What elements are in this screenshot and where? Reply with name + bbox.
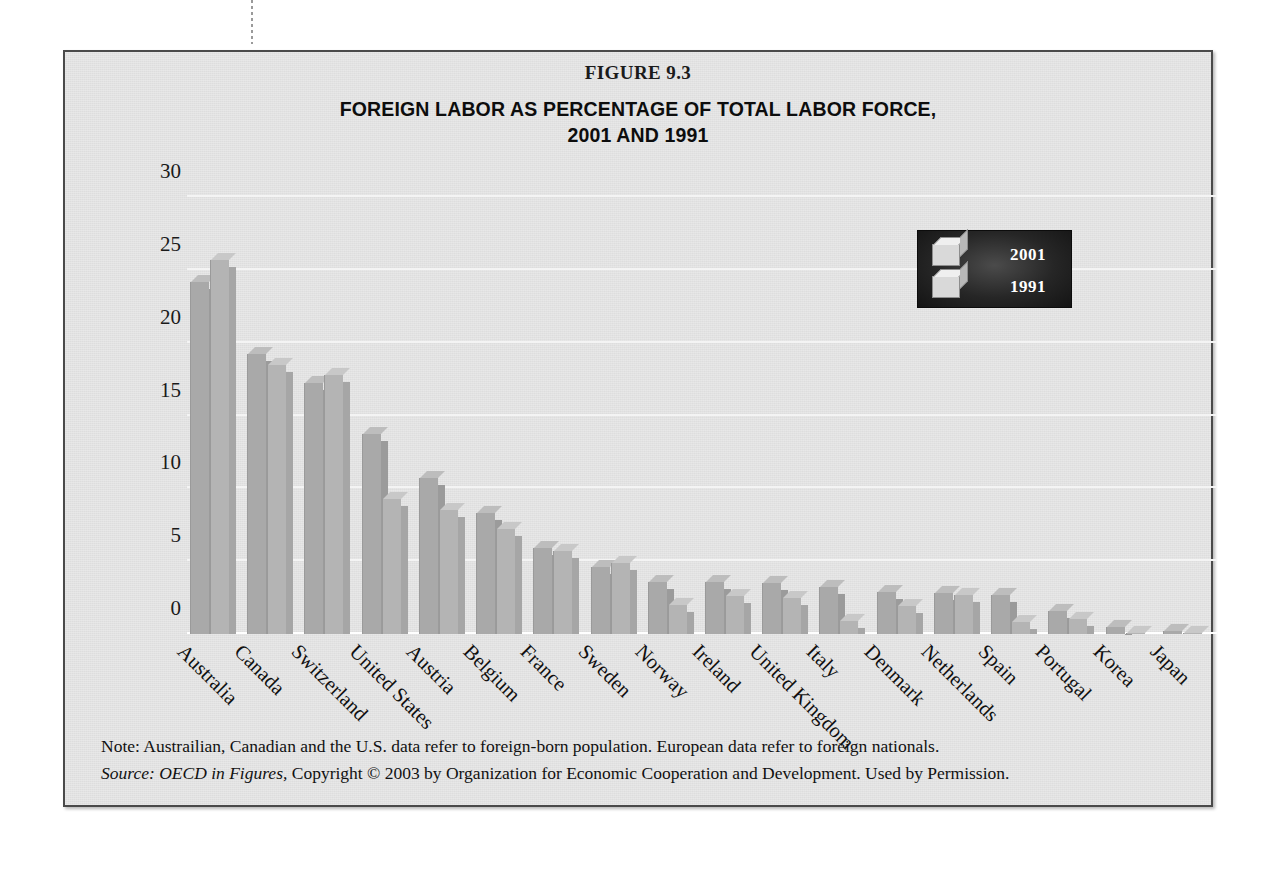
bar-2001 <box>190 282 209 635</box>
bar-1991 <box>210 260 229 634</box>
note-text: Note: Austrailian, Canadian and the U.S.… <box>101 733 1181 760</box>
cube-icon-1991 <box>932 276 960 298</box>
x-label-denmark: Denmark <box>859 640 929 710</box>
bar-group <box>1160 197 1217 634</box>
bar-2001 <box>762 583 781 634</box>
x-label-korea: Korea <box>1088 640 1140 692</box>
bar-1991 <box>725 596 744 634</box>
bar-1991 <box>1011 622 1030 634</box>
x-label-australia: Australia <box>173 640 242 709</box>
legend-label-2001: 2001 <box>1010 245 1046 265</box>
bar-1991 <box>439 510 458 634</box>
y-tick-label-20: 20 <box>111 305 181 330</box>
y-tick-label-5: 5 <box>111 523 181 548</box>
page-dotted-rule-artifact <box>251 0 253 44</box>
bar-2001 <box>247 354 266 634</box>
bar-group <box>588 197 645 634</box>
bar-group <box>1103 197 1160 634</box>
bar-2001 <box>934 593 953 634</box>
source-work-title: OECD in Figures, <box>159 763 287 783</box>
bar-1991 <box>496 529 515 634</box>
bar-2001 <box>591 567 610 634</box>
x-label-ireland: Ireland <box>688 640 745 697</box>
chart-legend: 2001 1991 <box>917 230 1072 308</box>
bar-2001 <box>533 548 552 634</box>
x-label-portugal: Portugal <box>1031 640 1096 705</box>
figure-title-line-1: FOREIGN LABOR AS PERCENTAGE OF TOTAL LAB… <box>65 96 1211 122</box>
bar-1991 <box>668 605 687 634</box>
bar-1991 <box>1183 633 1202 634</box>
bar-2001 <box>1106 627 1125 634</box>
bar-1991 <box>382 499 401 634</box>
x-label-sweden: Sweden <box>573 640 635 702</box>
x-label-belgium: Belgium <box>459 640 525 706</box>
bar-2001 <box>476 513 495 634</box>
source-label: Source: <box>101 763 155 783</box>
y-tick-label-25: 25 <box>111 232 181 257</box>
x-label-spain: Spain <box>974 640 1023 689</box>
y-tick-label-30: 30 <box>111 159 181 184</box>
x-label-italy: Italy <box>802 640 845 683</box>
bar-2001 <box>648 582 667 634</box>
figure-notes: Note: Austrailian, Canadian and the U.S.… <box>101 733 1181 787</box>
bar-2001 <box>705 582 724 634</box>
figure-panel: FIGURE 9.3 FOREIGN LABOR AS PERCENTAGE O… <box>63 50 1213 807</box>
bar-1991 <box>897 606 916 634</box>
legend-label-1991: 1991 <box>1010 277 1046 297</box>
y-tick-label-0: 0 <box>111 596 181 621</box>
x-label-japan: Japan <box>1146 640 1195 689</box>
source-rest: Copyright © 2003 by Organization for Eco… <box>292 763 1010 783</box>
bar-2001 <box>1163 631 1182 634</box>
bar-1991 <box>267 365 286 634</box>
figure-title-line-2: 2001 AND 1991 <box>65 122 1211 148</box>
bar-1991 <box>611 563 630 634</box>
bar-2001 <box>877 592 896 634</box>
bar-1991 <box>1126 633 1145 634</box>
bar-2001 <box>991 595 1010 634</box>
bar-group <box>702 197 759 634</box>
bar-2001 <box>819 587 838 634</box>
bar-2001 <box>304 383 323 634</box>
bar-1991 <box>954 595 973 634</box>
bar-1991 <box>553 551 572 634</box>
bar-1991 <box>782 598 801 634</box>
bar-2001 <box>1048 611 1067 634</box>
figure-number: FIGURE 9.3 <box>65 62 1211 84</box>
figure-titles: FIGURE 9.3 FOREIGN LABOR AS PERCENTAGE O… <box>65 62 1211 148</box>
bar-group <box>416 197 473 634</box>
bar-group <box>530 197 587 634</box>
bar-1991 <box>1068 619 1087 634</box>
bar-1991 <box>839 621 858 634</box>
bar-group <box>187 197 244 634</box>
bar-2001 <box>362 434 381 634</box>
y-tick-label-15: 15 <box>111 378 181 403</box>
bar-2001 <box>419 478 438 634</box>
bar-group <box>301 197 358 634</box>
source-line: Source: OECD in Figures, Copyright © 200… <box>101 760 1181 787</box>
bar-group <box>359 197 416 634</box>
bar-group <box>759 197 816 634</box>
bar-group <box>473 197 530 634</box>
cube-icon-2001 <box>932 244 960 266</box>
bar-group <box>244 197 301 634</box>
bar-1991 <box>324 375 343 634</box>
y-tick-label-10: 10 <box>111 450 181 475</box>
x-label-norway: Norway <box>631 640 694 703</box>
bar-group <box>645 197 702 634</box>
bar-group <box>816 197 873 634</box>
x-label-france: France <box>516 640 572 696</box>
